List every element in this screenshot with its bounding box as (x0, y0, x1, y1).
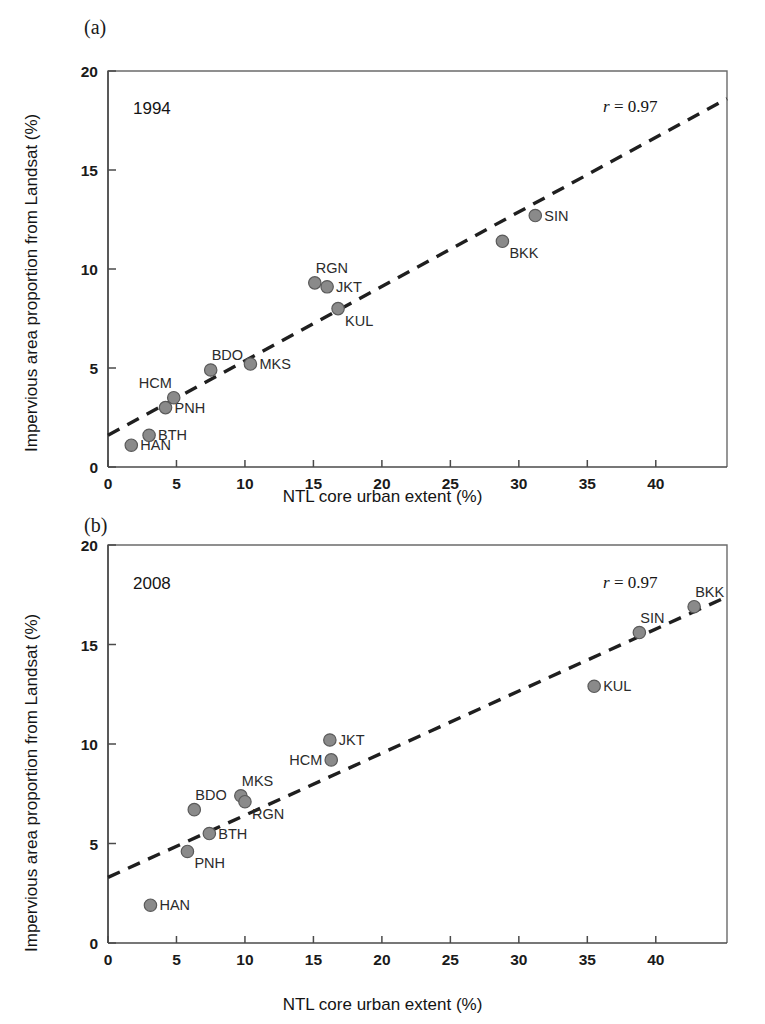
panel-a-r-symbol: r (603, 97, 610, 116)
data-point-label-bkk: BKK (509, 245, 538, 261)
panel-b-r-symbol: r (603, 573, 610, 592)
data-point-label-han: HAN (159, 897, 190, 913)
y-tick-label: 5 (89, 836, 98, 853)
data-point-label-bdo: BDO (195, 787, 226, 803)
panel-a-y-axis-title: Impervious area proportion from Landsat … (22, 114, 42, 452)
data-point-bth (203, 827, 215, 839)
data-point-label-mks: MKS (259, 356, 290, 372)
figure-scatter-panels: (a) 1994 r = 0.97 Impervious area propor… (0, 0, 765, 1024)
data-point-label-sin: SIN (640, 610, 664, 626)
y-tick-label: 15 (81, 637, 99, 654)
panel-b: (b) 2008 r = 0.97 Impervious area propor… (0, 512, 765, 1024)
y-tick-label: 0 (89, 935, 98, 952)
regression-fit-line (108, 597, 727, 878)
panel-a: (a) 1994 r = 0.97 Impervious area propor… (0, 0, 765, 512)
data-point-bdo (205, 364, 217, 376)
data-point-label-sin: SIN (544, 208, 568, 224)
panel-a-tag: (a) (84, 16, 106, 39)
data-point-rgn (309, 277, 321, 289)
data-point-bth (143, 429, 155, 441)
panel-a-r-value: = 0.97 (614, 97, 658, 116)
data-point-pnh (181, 845, 193, 857)
panel-b-y-axis-title: Impervious area proportion from Landsat … (22, 614, 42, 952)
panel-b-x-axis-title: NTL core urban extent (%) (0, 995, 765, 1015)
data-point-label-bdo: BDO (212, 347, 243, 363)
data-point-han (125, 439, 137, 451)
panel-b-correlation-annotation: r = 0.97 (603, 573, 657, 593)
data-point-label-bth: BTH (158, 427, 187, 443)
x-tick-label: 30 (510, 951, 527, 968)
data-point-label-bth: BTH (218, 826, 247, 842)
data-point-jkt (321, 281, 333, 293)
y-tick-label: 0 (89, 459, 98, 476)
x-tick-label: 35 (579, 951, 597, 968)
data-point-label-pnh: PNH (175, 400, 206, 416)
data-point-bkk (688, 600, 700, 612)
y-tick-label: 20 (81, 63, 98, 80)
data-point-kul (332, 302, 344, 314)
data-point-label-mks: MKS (242, 773, 273, 789)
data-point-label-jkt: JKT (339, 732, 365, 748)
data-point-sin (633, 626, 645, 638)
y-tick-label: 15 (81, 162, 99, 179)
regression-fit-line (108, 99, 727, 436)
panel-a-correlation-annotation: r = 0.97 (603, 97, 657, 117)
panel-b-r-value: = 0.97 (614, 573, 658, 592)
data-point-label-rgn: RGN (316, 260, 348, 276)
data-point-label-bkk: BKK (695, 584, 724, 600)
y-tick-label: 5 (89, 360, 98, 377)
data-point-label-hcm: HCM (289, 752, 322, 768)
panel-b-tag: (b) (84, 514, 107, 537)
data-point-han (144, 899, 156, 911)
data-point-label-hcm: HCM (139, 375, 172, 391)
panel-a-year-annotation: 1994 (133, 99, 171, 119)
data-point-label-kul: KUL (345, 313, 373, 329)
x-tick-label: 25 (442, 951, 460, 968)
x-tick-label: 20 (373, 951, 390, 968)
x-tick-label: 40 (647, 951, 664, 968)
data-point-bdo (188, 803, 200, 815)
y-tick-label: 20 (81, 537, 98, 554)
data-point-kul (588, 680, 600, 692)
data-point-hcm (168, 392, 180, 404)
data-point-rgn (239, 796, 251, 808)
y-tick-label: 10 (81, 261, 98, 278)
x-tick-label: 10 (236, 951, 253, 968)
x-tick-label: 5 (172, 951, 181, 968)
x-tick-label: 0 (104, 951, 113, 968)
data-point-bkk (496, 235, 508, 247)
data-point-sin (529, 209, 541, 221)
data-point-label-rgn: RGN (252, 806, 284, 822)
data-point-mks (244, 358, 256, 370)
data-point-label-pnh: PNH (194, 855, 225, 871)
x-tick-label: 15 (305, 951, 323, 968)
data-point-jkt (324, 734, 336, 746)
data-point-label-kul: KUL (603, 678, 631, 694)
panel-a-plot-area: 051015202530354005101520HANBTHPNHHCMBDOM… (0, 0, 765, 512)
panel-b-year-annotation: 2008 (133, 574, 171, 594)
plot-frame (108, 545, 727, 943)
panel-a-x-axis-title: NTL core urban extent (%) (0, 487, 765, 507)
data-point-hcm (325, 754, 337, 766)
y-tick-label: 10 (81, 736, 98, 753)
data-point-label-jkt: JKT (336, 279, 362, 295)
